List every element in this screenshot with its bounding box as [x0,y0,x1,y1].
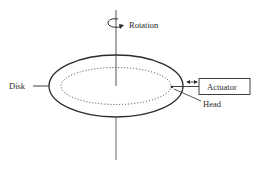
head-leader-line [174,89,201,101]
head-label: Head [203,99,222,109]
rotation-label: Rotation [129,20,159,30]
disk-label: Disk [9,81,26,91]
actuator-label: Actuator [207,82,237,92]
disk-drive-diagram: Rotation Disk Actuator Head [0,0,260,174]
